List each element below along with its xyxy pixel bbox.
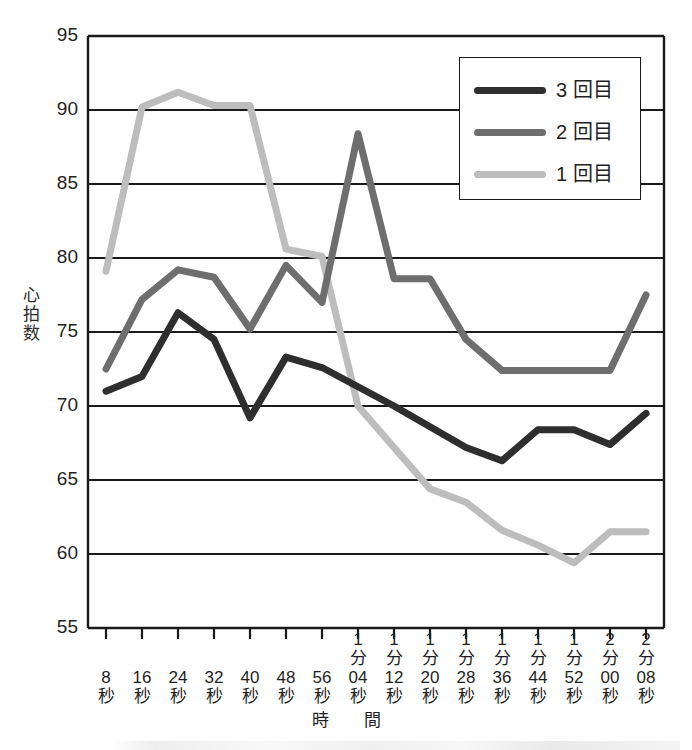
x-tick-label-12-line-2: 44 <box>521 668 555 687</box>
x-tick-label-1-line-1: 秒 <box>125 687 159 706</box>
x-tick-label-10-line-0: 1 <box>449 630 483 649</box>
x-tick-label-9: 1分20秒 <box>413 630 447 706</box>
x-tick-label-5: 48秒 <box>269 668 303 706</box>
x-tick-label-13: 1分52秒 <box>557 630 591 706</box>
x-tick-label-13-line-3: 秒 <box>557 687 591 706</box>
x-tick-label-14-line-3: 秒 <box>593 687 627 706</box>
x-tick-label-10-line-3: 秒 <box>449 687 483 706</box>
x-tick-label-10-line-2: 28 <box>449 668 483 687</box>
legend-item-1kaime[interactable]: 1 回目 <box>460 160 642 190</box>
x-tick-label-3-line-1: 秒 <box>197 687 231 706</box>
x-tick-label-15-line-1: 分 <box>629 649 663 668</box>
x-tick-label-11-line-3: 秒 <box>485 687 519 706</box>
x-tick-label-7-line-3: 秒 <box>341 687 375 706</box>
x-tick-label-3-line-0: 32 <box>197 668 231 687</box>
x-tick-label-12-line-3: 秒 <box>521 687 555 706</box>
legend-label-2: 1 回目 <box>556 160 613 188</box>
x-tick-label-7-line-2: 04 <box>341 668 375 687</box>
x-tick-label-7: 1分04秒 <box>341 630 375 706</box>
x-tick-label-14: 2分00秒 <box>593 630 627 706</box>
x-tick-label-15: 2分08秒 <box>629 630 663 706</box>
x-tick-label-13-line-1: 分 <box>557 649 591 668</box>
x-tick-label-11-line-1: 分 <box>485 649 519 668</box>
x-tick-label-4-line-1: 秒 <box>233 687 267 706</box>
x-tick-label-10-line-1: 分 <box>449 649 483 668</box>
x-tick-label-12: 1分44秒 <box>521 630 555 706</box>
x-tick-label-11: 1分36秒 <box>485 630 519 706</box>
x-tick-label-7-line-1: 分 <box>341 649 375 668</box>
x-tick-label-11-line-2: 36 <box>485 668 519 687</box>
x-tick-label-5-line-1: 秒 <box>269 687 303 706</box>
x-tick-label-8-line-1: 分 <box>377 649 411 668</box>
legend-label-0: 3 回目 <box>556 76 613 104</box>
x-tick-label-9-line-2: 20 <box>413 668 447 687</box>
x-tick-label-15-line-2: 08 <box>629 668 663 687</box>
x-tick-label-9-line-1: 分 <box>413 649 447 668</box>
x-tick-label-13-line-2: 52 <box>557 668 591 687</box>
x-tick-label-8-line-0: 1 <box>377 630 411 649</box>
legend-swatch-2 <box>474 171 546 178</box>
x-tick-label-14-line-1: 分 <box>593 649 627 668</box>
heart-rate-line-chart: 心拍数 959085807570656055 8秒16秒24秒32秒40秒48秒… <box>0 0 692 750</box>
x-tick-label-11-line-0: 1 <box>485 630 519 649</box>
page-caption-smudge <box>110 741 680 750</box>
x-tick-label-0-line-1: 秒 <box>89 687 123 706</box>
x-tick-label-6: 56秒 <box>305 668 339 706</box>
x-tick-label-1-line-0: 16 <box>125 668 159 687</box>
x-tick-label-15-line-0: 2 <box>629 630 663 649</box>
x-tick-label-14-line-0: 2 <box>593 630 627 649</box>
x-tick-label-2-line-1: 秒 <box>161 687 195 706</box>
x-tick-label-2: 24秒 <box>161 668 195 706</box>
legend: 3 回目2 回目1 回目 <box>459 57 641 200</box>
x-tick-label-6-line-1: 秒 <box>305 687 339 706</box>
x-tick-label-6-line-0: 56 <box>305 668 339 687</box>
x-tick-label-9-line-0: 1 <box>413 630 447 649</box>
legend-swatch-1 <box>474 129 546 136</box>
legend-label-1: 2 回目 <box>556 118 613 146</box>
x-tick-label-14-line-2: 00 <box>593 668 627 687</box>
x-axis-title: 時 間 <box>0 706 692 731</box>
x-tick-label-9-line-3: 秒 <box>413 687 447 706</box>
x-tick-label-10: 1分28秒 <box>449 630 483 706</box>
x-tick-label-4: 40秒 <box>233 668 267 706</box>
x-tick-label-4-line-0: 40 <box>233 668 267 687</box>
x-tick-label-5-line-0: 48 <box>269 668 303 687</box>
x-tick-label-12-line-0: 1 <box>521 630 555 649</box>
x-tick-label-7-line-0: 1 <box>341 630 375 649</box>
x-tick-label-2-line-0: 24 <box>161 668 195 687</box>
x-tick-label-1: 16秒 <box>125 668 159 706</box>
x-tick-label-8-line-2: 12 <box>377 668 411 687</box>
x-tick-label-15-line-3: 秒 <box>629 687 663 706</box>
x-tick-label-8-line-3: 秒 <box>377 687 411 706</box>
x-tick-label-0: 8秒 <box>89 668 123 706</box>
legend-item-2kaime[interactable]: 2 回目 <box>460 118 642 148</box>
legend-item-3kaime[interactable]: 3 回目 <box>460 76 642 106</box>
x-tick-label-12-line-1: 分 <box>521 649 555 668</box>
legend-swatch-0 <box>474 87 546 94</box>
x-tick-label-3: 32秒 <box>197 668 231 706</box>
x-tick-label-8: 1分12秒 <box>377 630 411 706</box>
x-tick-label-13-line-0: 1 <box>557 630 591 649</box>
x-tick-label-0-line-0: 8 <box>89 668 123 687</box>
